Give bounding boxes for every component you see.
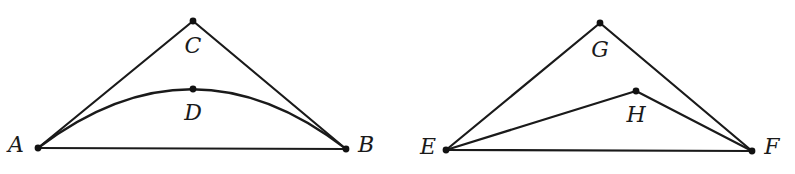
point-label-h: H xyxy=(626,104,645,126)
geometry-diagram xyxy=(0,0,795,174)
point-h-dot xyxy=(633,88,640,95)
point-b-dot xyxy=(343,146,350,153)
segment-ac xyxy=(38,21,193,148)
point-label-a: A xyxy=(8,134,24,156)
point-label-d: D xyxy=(184,102,202,124)
point-label-g: G xyxy=(591,39,609,61)
point-label-b: B xyxy=(358,134,374,156)
segment-ef xyxy=(446,150,752,151)
point-e-dot xyxy=(443,147,450,154)
point-d-dot xyxy=(190,86,197,93)
point-g-dot xyxy=(597,20,604,27)
point-label-e: E xyxy=(420,136,436,158)
segment-gf xyxy=(600,23,752,151)
point-c-dot xyxy=(190,18,197,25)
point-label-f: F xyxy=(764,136,779,158)
segment-hf xyxy=(636,91,752,151)
point-a-dot xyxy=(35,145,42,152)
segment-eh xyxy=(446,91,636,150)
point-label-c: C xyxy=(185,35,202,57)
point-f-dot xyxy=(749,148,756,155)
segment-ab xyxy=(38,148,346,149)
segment-cb xyxy=(193,21,346,149)
segment-eg xyxy=(446,23,600,150)
